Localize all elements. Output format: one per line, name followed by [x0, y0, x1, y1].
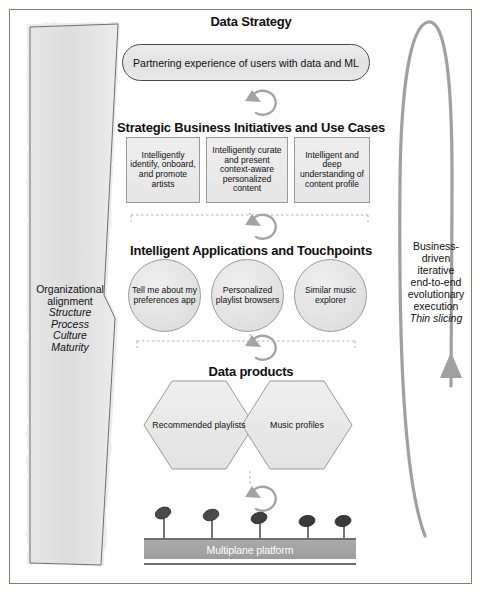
initiative-box-label: Intelligently identify, onboard, and pro…	[130, 151, 196, 189]
initiative-box-label: Intelligent and deep understanding of co…	[298, 151, 366, 189]
org-item-maturity: Maturity	[24, 342, 116, 354]
initiative-box[interactable]: Intelligent and deep understanding of co…	[294, 137, 370, 203]
initiative-box[interactable]: Intelligently curate and present context…	[206, 137, 288, 203]
multiplane-platform-bar[interactable]: Multiplane platform	[144, 540, 356, 559]
application-circle-row: Tell me about my preferences app Persona…	[128, 259, 368, 333]
heading-intelligent-applications: Intelligent Applications and Touchpoints	[116, 243, 386, 258]
right-line-4: end-to-end	[398, 276, 474, 288]
business-driven-label: Business- driven iterative end-to-end ev…	[398, 240, 474, 324]
right-line-1: Business-	[398, 240, 474, 252]
heading-data-products: Data products	[131, 364, 371, 379]
application-circle[interactable]: Similar music explorer	[294, 259, 367, 332]
data-strategy-pill[interactable]: Partnering experience of users with data…	[122, 44, 370, 81]
heading-data-strategy: Data Strategy	[131, 14, 371, 29]
data-strategy-pill-label: Partnering experience of users with data…	[133, 57, 359, 69]
org-line-1: Organizational	[24, 284, 116, 296]
organizational-alignment-label: Organizational alignment Structure Proce…	[24, 284, 116, 353]
org-item-structure: Structure	[24, 307, 116, 319]
multiplane-platform-label: Multiplane platform	[207, 544, 294, 556]
data-product-hexagon-row: Recommended playlists Music profiles	[144, 379, 356, 471]
application-circle[interactable]: Personalized playlist browsers	[211, 259, 284, 332]
right-line-2: driven	[398, 252, 474, 264]
initiative-box-label: Intelligently curate and present context…	[210, 146, 284, 194]
heading-strategic-business-initiatives: Strategic Business Initiatives and Use C…	[116, 120, 386, 135]
application-circle[interactable]: Tell me about my preferences app	[128, 259, 201, 332]
diagram-canvas: Organizational alignment Structure Proce…	[0, 0, 483, 595]
data-product-hexagon-label: Music profiles	[270, 420, 324, 430]
platform-base-rule	[144, 563, 356, 565]
application-circle-label: Similar music explorer	[295, 286, 366, 305]
right-line-6: execution	[398, 300, 474, 312]
data-product-hexagon[interactable]: Recommended playlists	[144, 379, 254, 471]
right-line-5: evolutionary	[398, 288, 474, 300]
initiative-box[interactable]: Intelligently identify, onboard, and pro…	[126, 137, 200, 203]
data-product-hexagon[interactable]: Music profiles	[242, 379, 352, 471]
data-product-hexagon-label: Recommended playlists	[152, 420, 245, 430]
right-line-3: iterative	[398, 264, 474, 276]
application-circle-label: Tell me about my preferences app	[129, 286, 200, 305]
right-thin-slicing: Thin slicing	[398, 312, 474, 324]
application-circle-label: Personalized playlist browsers	[212, 286, 283, 305]
initiative-box-row: Intelligently identify, onboard, and pro…	[126, 137, 366, 203]
org-item-culture: Culture	[24, 330, 116, 342]
